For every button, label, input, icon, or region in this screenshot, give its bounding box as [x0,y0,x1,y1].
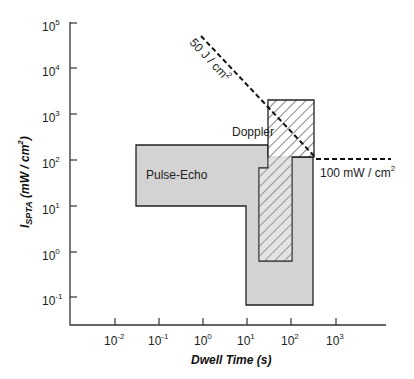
x-ticks [115,318,336,325]
svg-text:104: 104 [42,63,60,79]
svg-text:100: 100 [42,247,60,263]
svg-text:10-1: 10-1 [148,332,169,348]
pulse-echo-label: Pulse-Echo [146,168,208,182]
svg-text:102: 102 [281,332,299,348]
chart: 105 104 103 102 101 100 10-1 10-2 10-1 1… [0,0,414,379]
svg-text:105: 105 [42,18,60,34]
svg-text:103: 103 [326,332,344,348]
y-ticks [70,23,77,297]
svg-text:101: 101 [237,332,255,348]
doppler-label: Doppler [232,125,274,139]
svg-text:101: 101 [42,201,60,217]
y-axis-label: ISPTA (mW / cm2) [16,136,34,228]
x-axis-label: Dwell Time (s) [191,353,271,367]
x-tick-labels: 10-2 10-1 100 101 102 103 [104,332,344,348]
svg-text:100: 100 [194,332,212,348]
svg-text:10-2: 10-2 [104,332,125,348]
limit-100mw-label: 100 mW / cm2 [320,164,396,180]
svg-text:102: 102 [42,155,60,171]
limit-50j-label: 50 J / cm2 [187,35,235,84]
svg-text:10-1: 10-1 [42,292,63,308]
y-tick-labels: 105 104 103 102 101 100 10-1 [42,18,63,308]
svg-text:103: 103 [42,109,60,125]
